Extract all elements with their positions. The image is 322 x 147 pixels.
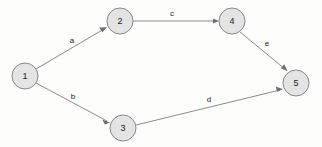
edge-e[interactable]: e (240, 32, 288, 71)
edge-e-line (240, 32, 285, 69)
edge-d[interactable]: d (136, 87, 283, 125)
node-5-label: 5 (293, 78, 298, 88)
node-2[interactable]: 2 (107, 8, 133, 34)
edge-a[interactable]: a (36, 27, 107, 69)
edge-a-label: a (70, 36, 75, 45)
node-3[interactable]: 3 (110, 115, 136, 141)
node-1[interactable]: 1 (12, 63, 38, 89)
edge-e-label: e (265, 39, 270, 48)
edge-d-arrowhead (276, 87, 283, 92)
edge-d-label: d (207, 95, 211, 104)
edge-b-line (36, 83, 107, 121)
edge-c-arrowhead (213, 18, 219, 23)
edge-b[interactable]: b (36, 83, 110, 124)
edge-c-label: c (170, 9, 174, 18)
edges-group: a b c d e (36, 9, 288, 126)
nodes-group: 1 2 3 4 5 (12, 8, 309, 141)
edge-c[interactable]: c (133, 9, 219, 24)
node-5[interactable]: 5 (283, 70, 309, 96)
node-1-label: 1 (22, 71, 27, 81)
node-2-label: 2 (117, 16, 122, 26)
edge-e-arrowhead (281, 64, 288, 71)
graph-svg: a b c d e (0, 0, 322, 147)
node-4-label: 4 (229, 16, 234, 26)
node-4[interactable]: 4 (219, 8, 245, 34)
diagram-canvas: a b c d e (0, 0, 322, 147)
node-3-label: 3 (120, 123, 125, 133)
edge-b-label: b (71, 92, 76, 101)
